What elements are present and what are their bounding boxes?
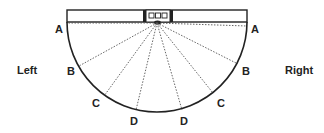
indicator-2: [156, 13, 161, 18]
left-side-label: Left: [17, 64, 37, 76]
zone-label-right-c: C: [217, 97, 225, 109]
ray-right-A: [157, 23, 247, 26]
right-side-label: Right: [285, 64, 313, 76]
ray-left-D: [136, 23, 157, 110]
ray-left-C: [104, 23, 157, 96]
indicator-3: [162, 13, 167, 18]
sensor-device: [143, 10, 173, 25]
zone-label-left-d: D: [130, 115, 138, 127]
zone-label-right-b: B: [242, 65, 250, 77]
ray-right-C: [157, 23, 213, 93]
coverage-diagram: [0, 0, 324, 133]
zone-label-left-b: B: [67, 65, 75, 77]
ray-left-B: [79, 23, 157, 66]
ray-right-B: [157, 23, 236, 63]
zone-label-left-c: C: [92, 97, 100, 109]
zone-label-right-d: D: [180, 115, 188, 127]
ray-right-D: [157, 23, 182, 110]
indicator-1: [149, 13, 154, 18]
zone-label-right-a: A: [251, 23, 259, 35]
zone-label-left-a: A: [55, 23, 63, 35]
